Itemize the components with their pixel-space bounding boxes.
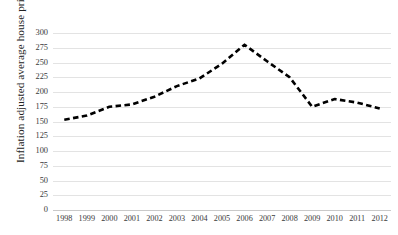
chart-container: Inflation adjusted average house prices … bbox=[0, 0, 398, 235]
series-line-inflation-adjusted-house-prices bbox=[64, 45, 379, 120]
series-line-group bbox=[0, 0, 398, 235]
plot-area: 0255075100125150175200225250275300 19981… bbox=[0, 0, 398, 235]
